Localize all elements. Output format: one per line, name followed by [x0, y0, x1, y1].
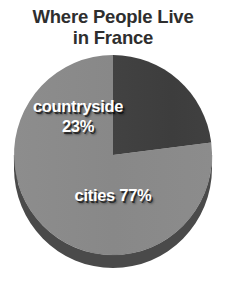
- pie-chart-figure: Where People Live in France: [0, 0, 226, 291]
- pie-slice-countryside[interactable]: [113, 55, 211, 155]
- pie-graphic: [0, 0, 226, 291]
- pie-svg: [0, 0, 226, 291]
